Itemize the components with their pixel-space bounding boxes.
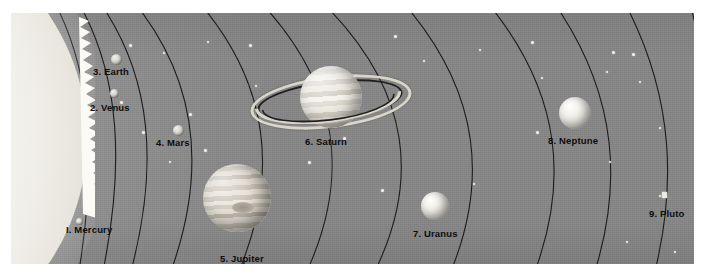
- planet-label-mars: 4. Mars: [156, 137, 190, 148]
- planet-label-neptune: 8. Neptune: [548, 135, 598, 146]
- star: [632, 53, 635, 56]
- planet-label-uranus: 7. Uranus: [413, 228, 458, 239]
- star: [659, 195, 661, 197]
- star: [189, 113, 192, 116]
- star: [394, 35, 397, 38]
- planet-label-saturn: 6. Saturn: [305, 136, 347, 147]
- orbit-path-outer-2: [691, 13, 694, 264]
- orbit-path-asteroid: [407, 13, 472, 264]
- planet-mars: [173, 125, 184, 136]
- planet-saturn: [250, 56, 412, 146]
- jupiter-great-red-spot: [232, 202, 254, 213]
- star: [612, 51, 615, 54]
- star: [423, 60, 425, 62]
- star: [541, 77, 543, 79]
- planet-pluto: [662, 192, 667, 198]
- star: [639, 81, 641, 83]
- star: [207, 41, 209, 43]
- planet-uranus: [421, 192, 449, 220]
- planet-venus: [110, 89, 119, 98]
- planet-earth: [111, 54, 122, 65]
- star: [308, 161, 311, 164]
- star: [659, 127, 661, 129]
- star: [536, 131, 539, 134]
- star: [473, 183, 475, 185]
- star: [609, 161, 611, 163]
- star: [674, 251, 676, 253]
- planet-label-venus: 2. Venus: [90, 102, 130, 113]
- planet-label-jupiter: 5. Jupiter: [220, 253, 264, 264]
- star: [163, 52, 165, 54]
- star: [531, 41, 534, 44]
- orbit-path-pluto: [627, 13, 668, 264]
- star: [626, 241, 628, 243]
- star: [204, 149, 207, 152]
- star: [606, 71, 608, 73]
- star: [249, 44, 252, 47]
- planet-neptune: [559, 97, 591, 129]
- illustration-panel: Sun I. Mercury 2. Venus 3. Earth 4. Mars…: [11, 13, 694, 264]
- planet-jupiter: [203, 164, 271, 232]
- solar-system-figure: Sun I. Mercury 2. Venus 3. Earth 4. Mars…: [0, 0, 707, 280]
- star: [129, 44, 132, 47]
- star: [381, 189, 384, 192]
- star: [142, 131, 145, 134]
- planet-label-mercury: I. Mercury: [66, 224, 112, 235]
- star: [169, 161, 171, 163]
- orbit-path-neptune: [491, 13, 554, 264]
- saturn-ring-front-arc: [250, 76, 406, 124]
- star: [479, 49, 481, 51]
- planet-label-earth: 3. Earth: [93, 66, 129, 77]
- planet-label-pluto: 9. Pluto: [649, 208, 685, 219]
